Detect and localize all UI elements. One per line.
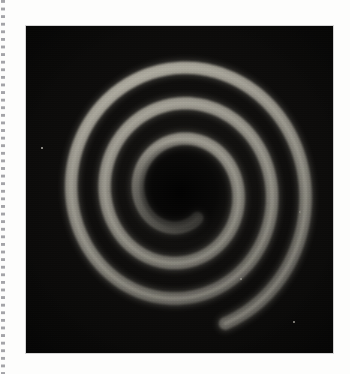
spiral-core-shadow [128, 140, 232, 244]
photographic-plate [26, 26, 333, 353]
scanned-page [0, 0, 350, 374]
spiral-figure [26, 26, 333, 353]
dotted-scan-edge-artifact [1, 0, 5, 374]
